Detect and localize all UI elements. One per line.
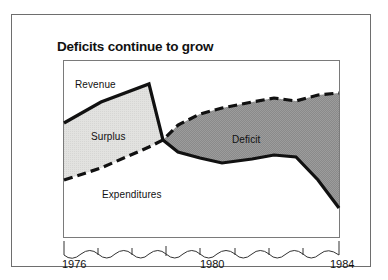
chart-plot-area: Revenue Surplus Expenditures Deficit 197… (12, 15, 372, 268)
x-axis (64, 241, 339, 258)
region-label-surplus: Surplus (91, 131, 126, 142)
figure-frame: Deficits continue to grow (11, 14, 371, 267)
series-label-expenditures: Expenditures (102, 189, 162, 200)
axis-wavy-line (64, 241, 339, 258)
axis-tick-label-end: 1984 (330, 258, 354, 270)
chart-svg (12, 15, 372, 268)
axis-tick-label-start: 1976 (62, 258, 86, 270)
axis-tick-label-middle: 1980 (200, 258, 224, 270)
series-label-revenue: Revenue (75, 79, 116, 90)
region-label-deficit: Deficit (232, 134, 260, 145)
